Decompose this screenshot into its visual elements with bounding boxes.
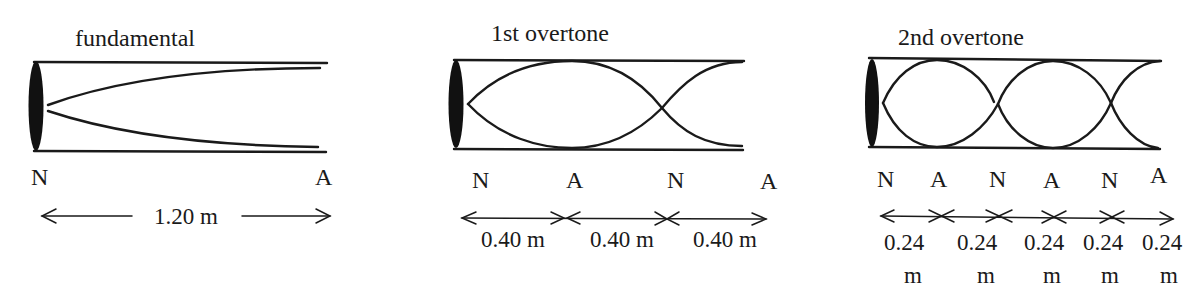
node-label: N (989, 166, 1006, 192)
antinode-label: A (1150, 162, 1168, 188)
antinode-label: A (315, 164, 333, 190)
panel-title: 1st overtone (491, 20, 609, 46)
closed-end-cap (865, 59, 879, 147)
dimension-value: 0.24 (1024, 230, 1065, 255)
panel-second-overtone: 2nd overtone N A N A N A (865, 24, 1183, 288)
wave-end-upper (1111, 61, 1160, 103)
antinode-label: A (760, 168, 778, 194)
dimension-unit: m (1043, 263, 1061, 288)
node-label: N (472, 167, 489, 193)
node-label: N (877, 166, 894, 192)
dimension-label: 1.20 m (154, 204, 218, 229)
wave-end-lower (1111, 103, 1158, 148)
antinode-label: A (930, 166, 948, 192)
panel-title: fundamental (75, 25, 195, 51)
wave-loop-1-lower (883, 103, 998, 147)
tube-bottom-wall (454, 149, 743, 150)
dimension-label: 0.40 m (590, 227, 654, 252)
dimension-arrows (462, 212, 766, 225)
panel-first-overtone: 1st overtone N A N A 0.40 m 0.40 m 0.40 … (449, 20, 779, 252)
antinode-label: A (566, 167, 584, 193)
tube-top-wall (869, 58, 1161, 61)
dimension-value: 0.24 (957, 230, 998, 255)
tube-top-wall (34, 62, 327, 63)
wave-envelope-lower (48, 111, 318, 147)
tube-bottom-wall (34, 151, 326, 152)
dimension-value: 0.24 (1083, 230, 1124, 255)
dimension-value: 0.24 (884, 230, 925, 255)
wave-envelope-upper (48, 68, 320, 105)
dimension-label: 0.40 m (481, 227, 545, 252)
standing-wave-diagram: fundamental N A 1.20 m 1st overtone N A … (0, 0, 1199, 296)
node-label: N (31, 164, 48, 190)
tube-bottom-wall (869, 147, 1160, 149)
node-label: N (667, 167, 684, 193)
wave-loop-1-upper (883, 60, 994, 103)
panel-title: 2nd overtone (898, 24, 1024, 50)
dimension-unit: m (977, 263, 995, 288)
closed-end-cap (449, 60, 464, 148)
dimension-unit: m (1101, 263, 1119, 288)
panel-fundamental: fundamental N A 1.20 m (29, 25, 334, 229)
wave-loop-2-upper (998, 61, 1111, 104)
wave-loop-2-lower (998, 103, 1111, 148)
dimension-arrows (881, 210, 1173, 225)
dimension-value: 0.24 (1142, 230, 1183, 255)
closed-end-cap (29, 61, 44, 151)
dimension-unit: m (904, 263, 922, 288)
antinode-label: A (1043, 167, 1061, 193)
dimension-label: 0.40 m (693, 227, 757, 252)
node-label: N (1101, 167, 1118, 193)
tube-top-wall (454, 60, 744, 61)
dimension-unit: m (1160, 263, 1178, 288)
